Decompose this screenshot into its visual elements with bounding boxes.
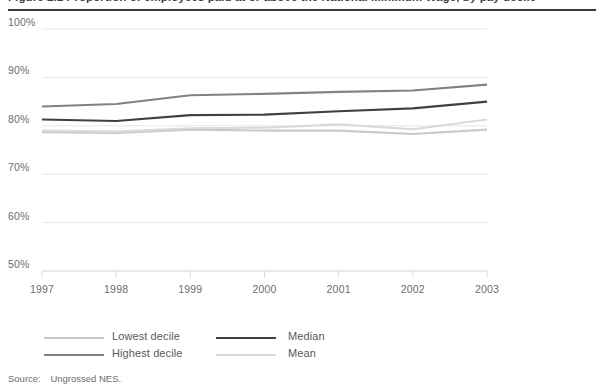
y-axis-label: 70% [8,161,30,173]
figure-container: Figure 2.1 Proportion of employees paid … [0,0,604,391]
figure-title: Figure 2.1 Proportion of employees paid … [8,0,598,7]
x-axis-label: 2002 [388,283,438,295]
x-axis-label: 1997 [17,283,67,295]
source-note: Source: Ungrossed NES. [8,373,121,384]
legend-line-swatch [216,354,276,356]
x-axis-label: 2003 [462,283,512,295]
y-axis-label: 90% [8,64,30,76]
chart-legend: Lowest decileHighest decileMedianMean [44,330,404,364]
legend-label: Lowest decile [112,330,180,342]
line-chart-svg [0,14,604,304]
x-axis-label: 2000 [240,283,290,295]
y-axis-label: 80% [8,113,30,125]
legend-label: Highest decile [112,347,183,359]
x-axis-label: 1999 [165,283,215,295]
source-value: Ungrossed NES. [50,373,121,384]
x-axis-label: 1998 [91,283,141,295]
source-label: Source: [8,373,41,384]
legend-line-swatch [216,337,276,339]
legend-label: Median [288,330,325,342]
legend-line-swatch [44,354,104,356]
y-axis-label: 50% [8,258,30,270]
chart-plot-area: 50%60%70%80%90%100% 19971998199920002001… [0,14,604,304]
legend-label: Mean [288,347,316,359]
series-line-highest-decile [42,85,487,107]
legend-line-swatch [44,337,104,339]
title-divider [8,9,596,11]
y-axis-label: 100% [8,16,36,28]
y-axis-label: 60% [8,210,30,222]
x-axis-label: 2001 [314,283,364,295]
